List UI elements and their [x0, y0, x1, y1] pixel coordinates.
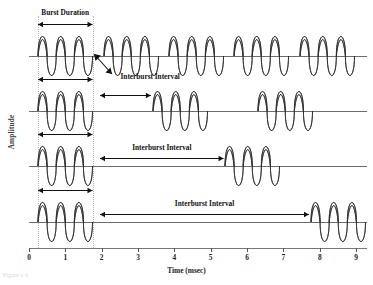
- x-tick-label: 4: [173, 253, 177, 262]
- x-tick-mark: [356, 248, 357, 252]
- x-tick-label: 5: [209, 253, 213, 262]
- x-tick-mark: [283, 248, 284, 252]
- x-tick-mark: [247, 248, 248, 252]
- burst-duration-arrow-row2: [32, 75, 99, 84]
- burst-duration-arrow-row4: [32, 186, 99, 195]
- interburst-interval-arrow-row4: [94, 210, 315, 219]
- burst-waveform: [300, 35, 355, 91]
- interburst-interval-arrow-row3: [94, 154, 230, 163]
- burst-duration-label: Burst Duration: [41, 8, 89, 17]
- burst-duration-arrow-row3: [32, 130, 99, 139]
- burst-waveform: [258, 90, 313, 146]
- burst-waveform: [153, 90, 208, 146]
- x-tick-mark: [29, 248, 30, 252]
- x-tick-label: 3: [136, 253, 140, 262]
- x-tick-label: 8: [318, 253, 322, 262]
- burst-waveform: [225, 145, 280, 201]
- x-tick-label: 9: [354, 253, 358, 262]
- x-tick-mark: [65, 248, 66, 252]
- x-tick-label: 0: [27, 253, 31, 262]
- x-tick-mark: [174, 248, 175, 252]
- x-tick-label: 1: [63, 253, 67, 262]
- x-tick-label: 7: [282, 253, 286, 262]
- x-tick-mark: [211, 248, 212, 252]
- x-tick-mark: [102, 248, 103, 252]
- x-axis-label: Time (msec): [0, 266, 373, 275]
- interburst-interval-arrow-row2: [94, 91, 157, 100]
- burst-pattern-figure: Amplitude: [0, 0, 373, 285]
- caption-stub: Figure 1-1: [3, 272, 28, 278]
- interburst-interval-label-row4: Interburst Interval: [175, 199, 234, 208]
- interburst-interval-label-row3: Interburst Interval: [132, 143, 191, 152]
- x-tick-label: 2: [100, 253, 104, 262]
- interburst-interval-label-row1: Interburst Interval: [121, 72, 180, 81]
- burst-waveform: [234, 35, 289, 91]
- x-tick-mark: [320, 248, 321, 252]
- burst-duration-arrow-row1: [32, 20, 99, 29]
- x-axis-line: [29, 248, 367, 249]
- burst-waveform: [169, 35, 224, 91]
- x-tick-mark: [138, 248, 139, 252]
- interburst-pointer-arrow-row1: [92, 52, 118, 78]
- x-tick-label: 6: [245, 253, 249, 262]
